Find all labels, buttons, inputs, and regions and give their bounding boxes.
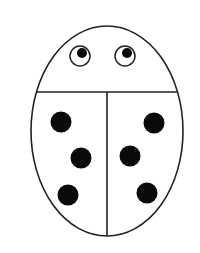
eye-right <box>115 46 135 66</box>
pupil <box>77 48 87 58</box>
ladybug-drawing <box>0 0 200 253</box>
spot-6 <box>137 183 158 204</box>
eye-left <box>70 46 90 66</box>
spot-5 <box>120 146 141 167</box>
pupil <box>122 48 132 58</box>
ladybug-figure: ladybug line drawing <box>0 0 200 253</box>
spot-2 <box>71 148 92 169</box>
spot-3 <box>58 185 79 206</box>
spot-4 <box>144 113 165 134</box>
spot-1 <box>51 112 72 133</box>
